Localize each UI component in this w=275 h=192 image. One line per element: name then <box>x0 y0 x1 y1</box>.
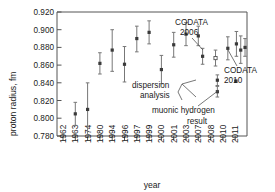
data-point-marker <box>148 31 151 34</box>
x-tick-label: 2001 <box>170 124 179 143</box>
annotation-line2: analysis <box>140 91 170 100</box>
data-point-marker <box>201 55 204 58</box>
x-tick-label: 1962 <box>59 124 68 143</box>
data-point-marker <box>86 108 89 111</box>
data-point-marker <box>243 46 246 49</box>
plot-frame <box>57 12 247 136</box>
data-point <box>172 32 176 57</box>
annotation-line1: CODATA <box>175 18 208 27</box>
annotation-codata-2006: CODATA 2006 <box>175 18 208 50</box>
data-point <box>160 55 164 83</box>
x-tick-label: 2011 <box>231 125 240 143</box>
x-tick-label: 2010 <box>219 124 228 143</box>
x-tick-label: 2007 <box>194 124 203 143</box>
data-point-marker <box>172 43 175 46</box>
data-point <box>226 37 230 60</box>
data-point <box>214 50 218 66</box>
y-tick-label: 0.900 <box>34 26 55 35</box>
data-point <box>235 31 239 56</box>
annotation-line1: muonic hydrogen <box>152 106 215 115</box>
x-tick-label: 1963 <box>71 124 80 143</box>
data-point-marker <box>123 63 126 66</box>
data-points-layer <box>74 21 247 136</box>
y-tick-label: 0.860 <box>34 61 55 70</box>
data-point-marker <box>216 79 219 82</box>
x-axis-title: year <box>144 180 161 190</box>
data-point <box>123 47 127 82</box>
data-point <box>239 36 243 63</box>
annotation-line2: 2010 <box>224 76 243 85</box>
annotation-line1: CODATA <box>224 66 257 75</box>
data-point <box>135 26 139 52</box>
annotation-line2: result <box>187 117 208 126</box>
data-point-marker <box>74 112 77 115</box>
x-tick-label: 2008 <box>207 124 216 143</box>
y-tick-label: 0.820 <box>34 97 55 106</box>
data-point <box>110 30 114 72</box>
data-point-marker <box>98 62 101 65</box>
x-tick-label: 1999 <box>145 124 154 143</box>
y-axis-tick-labels: 0.920 0.900 0.880 0.860 0.840 0.820 0.80… <box>34 8 55 141</box>
y-axis-title: proton radius, fm <box>8 72 18 136</box>
annotation-dispersion-analysis: dispersion analysis <box>132 80 196 100</box>
x-tick-label: 1980 <box>96 124 105 143</box>
data-point <box>147 21 151 44</box>
data-point <box>216 75 220 86</box>
y-axis-ticks <box>57 12 62 136</box>
x-tick-label: 2000 <box>157 124 166 143</box>
x-tick-label: 1994 <box>108 124 117 143</box>
data-point-marker <box>214 56 217 59</box>
annotation-line1: dispersion <box>132 81 170 90</box>
data-point <box>74 102 78 125</box>
data-point-marker <box>226 47 229 50</box>
x-tick-label: 2003 <box>182 124 191 143</box>
data-point-marker <box>111 48 114 51</box>
y-tick-label: 0.780 <box>34 132 55 141</box>
x-tick-label: 1997 <box>133 124 142 143</box>
data-point-marker <box>160 68 163 71</box>
y-tick-label: 0.880 <box>34 43 55 52</box>
chart-svg: 0.920 0.900 0.880 0.860 0.840 0.820 0.80… <box>0 0 275 192</box>
y-tick-label: 0.920 <box>34 8 55 17</box>
data-point-marker <box>239 48 242 51</box>
data-point <box>201 48 205 64</box>
y-tick-label: 0.800 <box>34 114 55 123</box>
x-tick-label: 1996 <box>121 124 130 143</box>
y-tick-label: 0.840 <box>34 79 55 88</box>
data-point-marker <box>135 37 138 40</box>
data-point-marker <box>235 42 238 45</box>
annotation-line2: 2006 <box>180 28 199 37</box>
x-axis-tick-labels: 1962 1963 1974 1980 1994 1996 1997 1999 … <box>59 124 240 143</box>
data-point <box>243 39 247 57</box>
proton-radius-chart: 0.920 0.900 0.880 0.860 0.840 0.820 0.80… <box>0 0 275 192</box>
data-point <box>98 53 102 74</box>
